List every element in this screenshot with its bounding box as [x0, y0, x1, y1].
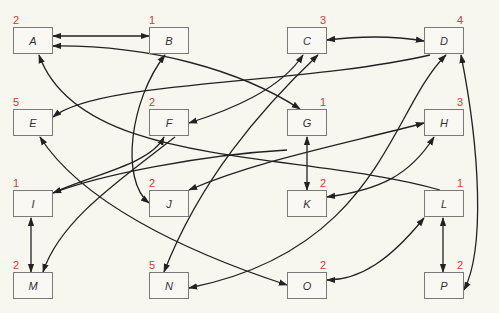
edge-c-d [327, 37, 424, 41]
node-label: J [166, 198, 172, 210]
node-k: K [287, 190, 327, 217]
node-label: K [303, 198, 310, 210]
node-label: N [165, 280, 173, 292]
edge-n-c [164, 55, 318, 272]
edge-g-i [53, 150, 287, 193]
node-m: M [13, 272, 53, 299]
node-b: B [149, 27, 189, 54]
edge-l-a [39, 55, 440, 190]
edge-i-f [53, 137, 164, 193]
node-count: 1 [457, 177, 463, 189]
edge-g-a [53, 46, 300, 109]
edge-c-f [189, 55, 303, 123]
node-j: J [149, 190, 189, 217]
node-f: F [149, 109, 189, 136]
node-l: L [424, 190, 464, 217]
node-count: 5 [149, 259, 155, 271]
edge-h-k [327, 137, 434, 197]
node-c: C [287, 27, 327, 54]
node-count: 5 [13, 96, 19, 108]
node-d: D [424, 27, 464, 54]
node-count: 2 [13, 14, 19, 26]
node-count: 2 [320, 177, 326, 189]
node-e: E [13, 109, 53, 136]
node-label: B [165, 35, 172, 47]
node-label: H [440, 117, 448, 129]
node-p: P [424, 272, 464, 299]
node-label: I [31, 198, 34, 210]
node-count: 2 [149, 96, 155, 108]
edge-d-n [189, 55, 446, 288]
node-label: C [303, 35, 311, 47]
edge-d-e [53, 55, 430, 117]
node-g: G [287, 109, 327, 136]
node-n: N [149, 272, 189, 299]
node-count: 1 [13, 177, 19, 189]
node-label: D [440, 35, 448, 47]
node-label: M [28, 280, 37, 292]
node-label: F [166, 117, 173, 129]
node-label: G [303, 117, 312, 129]
node-label: P [440, 280, 447, 292]
node-i: I [13, 190, 53, 217]
node-label: L [441, 198, 447, 210]
node-count: 2 [320, 259, 326, 271]
node-count: 2 [13, 259, 19, 271]
node-o: O [287, 272, 327, 299]
node-label: A [29, 35, 36, 47]
node-count: 1 [149, 14, 155, 26]
node-count: 3 [320, 14, 326, 26]
node-count: 2 [457, 259, 463, 271]
node-h: H [424, 109, 464, 136]
edge-l-o [327, 218, 424, 280]
node-count: 4 [457, 14, 463, 26]
edge-d-p [461, 55, 478, 290]
node-count: 3 [457, 96, 463, 108]
node-label: O [303, 280, 312, 292]
node-label: E [29, 117, 36, 129]
node-a: A [13, 27, 53, 54]
node-count: 1 [320, 96, 326, 108]
node-count: 2 [149, 177, 155, 189]
